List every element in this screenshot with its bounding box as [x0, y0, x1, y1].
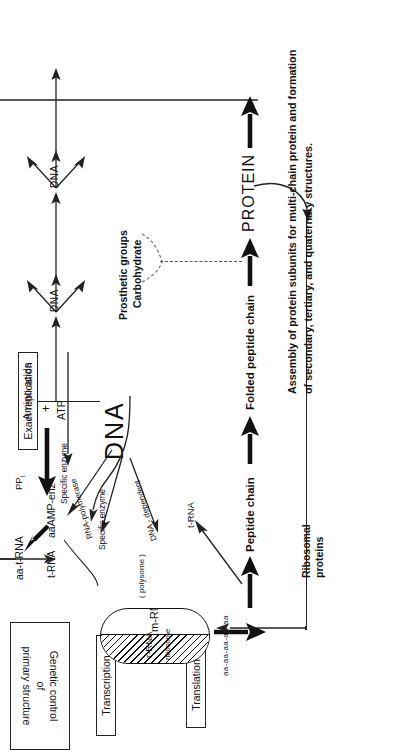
- curve-trna-to-aatrna: [56, 528, 102, 588]
- node-folded-peptide-chain: Folded peptide chain: [244, 295, 257, 410]
- annotation-prosthetic-groups: Prosthetic groups: [118, 230, 130, 320]
- prosthetic-groups-dashed-stem: [160, 261, 242, 262]
- node-amino-acids: Amino acids: [22, 363, 34, 420]
- ribosome-polysome-capsule: r-RNA ribosome m-RNA: [100, 608, 210, 664]
- arrow-dna2-fan: [12, 132, 98, 192]
- rotated-diagram-container: Genetic control of primary structure Tra…: [0, 0, 416, 756]
- diagram-canvas: Genetic control of primary structure Tra…: [0, 0, 416, 756]
- annotation-assembly-line-2: of secondary, tertiary, and quaternary s…: [302, 143, 314, 394]
- figure-page: Genetic control of primary structure Tra…: [0, 0, 416, 756]
- ribosome-hatched-region: [101, 634, 209, 663]
- feedback-corner: [305, 626, 306, 630]
- arrow-protein-to-assembly: [238, 92, 262, 148]
- arrow-aa-atp-to-aaamp: [36, 424, 58, 502]
- annotation-carbohydrate: Carbohydrate: [132, 240, 144, 308]
- arrow-dna1-fan: [12, 256, 98, 316]
- arrow-feedback-into-ribosome: [196, 610, 312, 650]
- node-plus: +: [40, 405, 53, 412]
- arrow-release-trna: [190, 516, 246, 586]
- node-ribosomal-proteins: Ribosomal proteins: [300, 524, 326, 578]
- arrow-enzyme-feedback-1: [58, 350, 78, 470]
- recycle-loop-right-descend: [0, 80, 262, 110]
- box-genetic-control-label: Genetic control of primary structure: [20, 647, 59, 726]
- capsule-label-m-rna: m-RNA: [148, 608, 160, 632]
- capsule-label-r-rna: r-RNA: [143, 632, 154, 658]
- node-polysome: ( polysome ): [138, 554, 147, 598]
- capsule-label-ribosome: ribosome: [163, 629, 172, 660]
- box-genetic-control: Genetic control of primary structure: [10, 622, 70, 750]
- arrow-aaamp-to-aatrna: [22, 522, 56, 556]
- box-transcription-label: Transcription: [100, 655, 112, 715]
- arrow-peptide-to-folded: [238, 412, 262, 464]
- recycle-loop-top: [0, 70, 22, 570]
- prosthetic-groups-fork: [140, 226, 168, 286]
- annotation-assembly-line-1: Assembly of protein subunits for multi-c…: [286, 50, 298, 394]
- box-translation-label: Translation: [190, 659, 202, 711]
- arrow-enzyme-feedback-2: [86, 394, 136, 530]
